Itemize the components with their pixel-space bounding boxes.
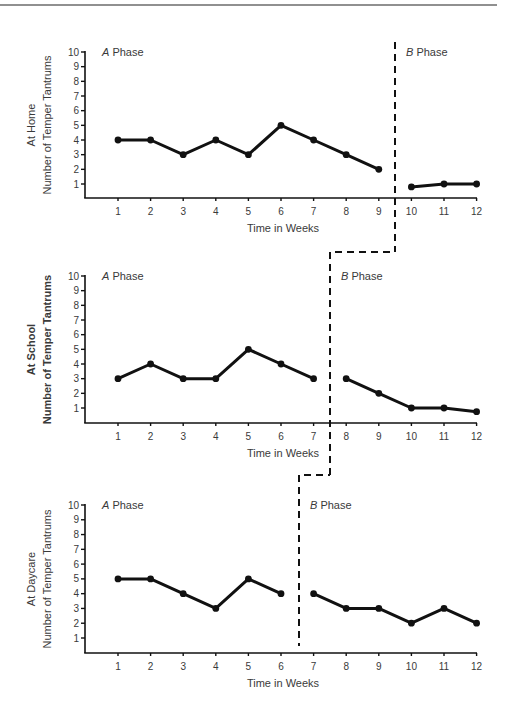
chart-panel-at-school: 12345678910123456789101112Time in WeeksA… [25,252,483,475]
x-tick-label: 3 [180,431,186,442]
y-tick-label: 6 [73,559,79,570]
x-tick-label: 2 [148,431,154,442]
data-point [115,137,122,144]
data-line-b [314,594,477,624]
data-point [147,137,154,144]
x-tick-label: 5 [246,661,252,672]
data-point [278,361,285,368]
data-point [473,181,480,188]
data-point [147,575,154,582]
x-tick-label: 6 [278,206,284,217]
x-tick-label: 4 [213,431,219,442]
x-axis-title: Time in Weeks [247,677,320,689]
x-tick-label: 3 [180,661,186,672]
data-point [473,620,480,627]
x-tick-label: 4 [213,206,219,217]
multiple-baseline-figure: 12345678910123456789101112Time in WeeksA… [0,0,510,715]
data-point [180,375,187,382]
phase-label-b: B Phase [310,499,352,511]
data-point [245,346,252,353]
x-tick-label: 5 [246,206,252,217]
y-tick-label: 1 [73,403,79,414]
y-tick-label: 9 [73,285,79,296]
data-point [375,390,382,397]
y-tick-label: 5 [73,573,79,584]
y-tick-label: 2 [73,618,79,629]
data-point [375,605,382,612]
y-tick-label: 3 [73,149,79,160]
data-point [212,375,219,382]
chart-panel-at-home: 12345678910123456789101112Time in WeeksA… [25,42,483,252]
x-tick-label: 1 [115,661,121,672]
data-point [441,181,448,188]
data-point [408,184,415,191]
data-point [212,137,219,144]
y-tick-label: 6 [73,105,79,116]
data-point [408,405,415,412]
data-point [473,408,480,415]
x-tick-label: 7 [311,661,317,672]
x-tick-label: 8 [343,661,349,672]
x-tick-label: 7 [311,431,317,442]
x-axis-title: Time in Weeks [247,447,320,459]
x-tick-label: 10 [406,431,418,442]
x-tick-label: 9 [376,431,382,442]
data-point [245,575,252,582]
y-axis-setting-label: At Daycare [25,552,37,606]
y-tick-label: 7 [73,544,79,555]
y-tick-label: 7 [73,91,79,102]
x-tick-label: 10 [406,206,418,217]
x-tick-label: 11 [439,206,450,217]
data-point [310,375,317,382]
data-point [408,620,415,627]
y-tick-label: 1 [73,179,79,190]
x-tick-label: 7 [311,206,317,217]
y-tick-label: 4 [73,359,79,370]
y-tick-label: 8 [73,300,79,311]
x-tick-label: 9 [376,661,382,672]
y-tick-label: 4 [73,135,79,146]
x-tick-label: 1 [115,431,121,442]
y-tick-label: 8 [73,529,79,540]
y-tick-label: 2 [73,388,79,399]
x-tick-label: 3 [180,206,186,217]
y-tick-label: 2 [73,164,79,175]
y-axis-title: Number of Temper Tantrums [41,509,53,648]
phase-label-b: B Phase [341,270,383,282]
y-axis-setting-label: At Home [25,104,37,147]
data-line-a [118,125,379,169]
phase-label-a: A Phase [101,270,144,282]
y-tick-label: 4 [73,588,79,599]
y-axis-title: Number of Temper Tantrums [41,55,53,194]
x-tick-label: 2 [148,206,154,217]
y-tick-label: 7 [73,315,79,326]
x-tick-label: 5 [246,431,252,442]
x-tick-label: 4 [213,661,219,672]
y-tick-label: 5 [73,120,79,131]
y-tick-label: 9 [73,514,79,525]
data-point [180,590,187,597]
phase-label-a: A Phase [101,46,144,58]
data-point [343,151,350,158]
x-tick-label: 12 [471,431,483,442]
data-point [441,605,448,612]
x-tick-label: 11 [439,661,450,672]
y-tick-label: 5 [73,344,79,355]
y-tick-label: 1 [73,633,79,644]
data-point [212,605,219,612]
data-point [441,405,448,412]
x-tick-label: 12 [471,661,483,672]
x-tick-label: 1 [115,206,121,217]
x-axis-title: Time in Weeks [247,222,320,234]
data-point [147,361,154,368]
x-tick-label: 10 [406,661,418,672]
y-axis-setting-label: At School [25,324,37,375]
phase-label-b: B Phase [406,46,448,58]
y-tick-label: 10 [68,500,80,511]
y-tick-label: 3 [73,373,79,384]
y-tick-label: 9 [73,61,79,72]
x-tick-label: 12 [471,206,483,217]
x-tick-label: 8 [343,431,349,442]
chart-panels: 12345678910123456789101112Time in WeeksA… [25,42,483,689]
x-tick-label: 11 [439,431,450,442]
